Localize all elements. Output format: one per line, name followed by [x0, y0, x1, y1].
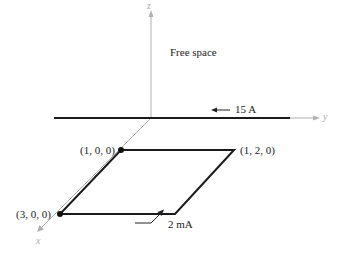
x-axis-label: x — [36, 236, 40, 246]
diagram-canvas — [0, 0, 344, 254]
loop-current-arrow-icon — [135, 210, 164, 224]
current-loop — [60, 150, 234, 214]
corner-label-1-2-0: (1, 2, 0) — [240, 145, 275, 156]
region-label: Free space — [170, 47, 217, 58]
corner-dot-3-0-0 — [57, 211, 63, 217]
wire-current-arrow-icon — [211, 108, 230, 113]
y-axis-label: y — [323, 112, 327, 122]
loop-current-label: 2 mA — [168, 219, 193, 230]
corner-dot-1-0-0 — [118, 147, 124, 153]
wire-current-label: 15 A — [235, 104, 256, 115]
corner-label-1-0-0: (1, 0, 0) — [80, 145, 115, 156]
corner-label-3-0-0: (3, 0, 0) — [16, 209, 51, 220]
z-axis-label: z — [147, 1, 151, 11]
z-axis — [149, 10, 154, 118]
